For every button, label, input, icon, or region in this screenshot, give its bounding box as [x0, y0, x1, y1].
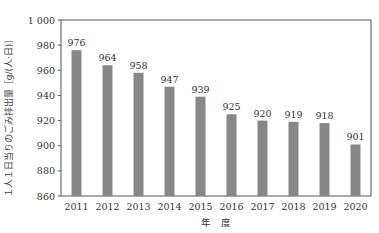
- y-tick-label: 900: [37, 140, 55, 151]
- x-tick-label: 2012: [95, 201, 119, 212]
- x-tick-label: 2015: [188, 201, 212, 212]
- bar-value-label: 964: [98, 52, 116, 63]
- bar: [103, 65, 113, 196]
- bar: [165, 87, 175, 196]
- x-tick-label: 2018: [281, 201, 305, 212]
- bar-value-label: 947: [160, 74, 178, 85]
- y-axis-ticks: 8608809009209409609801 000: [28, 15, 61, 202]
- y-tick-label: 880: [37, 165, 55, 176]
- bars: [72, 50, 361, 196]
- bar-value-label: 939: [191, 84, 209, 95]
- x-tick-label: 2017: [250, 201, 274, 212]
- x-tick-label: 2013: [126, 201, 150, 212]
- x-tick-label: 2014: [157, 201, 181, 212]
- bar: [134, 73, 144, 196]
- bar: [227, 114, 237, 196]
- bar-value-label: 958: [129, 60, 147, 71]
- bar: [351, 144, 361, 196]
- bar: [72, 50, 82, 196]
- bar-value-label: 920: [253, 108, 271, 119]
- y-tick-label: 860: [37, 191, 55, 202]
- y-axis-label: １人１日当りのごみ排出量［g/(人·日)］: [3, 35, 14, 198]
- y-tick-label: 960: [37, 65, 55, 76]
- bar-value-label: 918: [315, 110, 333, 121]
- bar-value-label: 925: [222, 101, 240, 112]
- bar-value-label: 901: [346, 131, 364, 142]
- y-tick-label: 940: [37, 90, 55, 101]
- x-tick-label: 2020: [343, 201, 367, 212]
- bar-value-label: 976: [67, 37, 85, 48]
- bar: [196, 97, 206, 196]
- y-axis-label-text: １人１日当りのごみ排出量［g/(人·日)］: [3, 35, 14, 198]
- y-tick-label: 1 000: [28, 15, 55, 26]
- x-axis-label: 年 度: [201, 217, 231, 228]
- bar: [258, 121, 268, 196]
- bar-value-label: 919: [284, 109, 302, 120]
- bar: [320, 123, 330, 196]
- y-tick-label: 980: [37, 40, 55, 51]
- x-tick-label: 2016: [219, 201, 243, 212]
- x-axis-ticks: 2011201220132014201520162017201820192020: [64, 201, 367, 212]
- x-tick-label: 2019: [312, 201, 336, 212]
- bar-chart: １人１日当りのごみ排出量［g/(人·日)］ 860880900920940960…: [0, 0, 379, 233]
- bar: [289, 122, 299, 196]
- y-tick-label: 920: [37, 115, 55, 126]
- x-tick-label: 2011: [64, 201, 88, 212]
